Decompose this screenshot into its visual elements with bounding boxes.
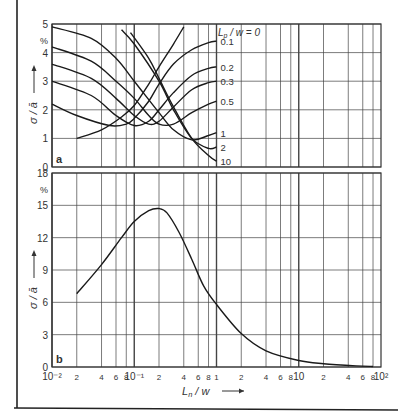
panel-tag: b — [56, 353, 63, 365]
x-tick-label: 10⁻² — [42, 371, 62, 382]
x-tick-label: 6 — [361, 373, 366, 382]
y-tick-label: 6 — [42, 297, 48, 308]
y-unit-label: % — [40, 36, 48, 46]
x-tick-label: 10 — [293, 371, 305, 382]
x-tick-label: 10² — [374, 371, 389, 382]
page-border-bottom — [14, 408, 398, 410]
series-label: 0.2 — [221, 62, 234, 73]
series-label: 0.5 — [221, 96, 234, 107]
y-tick-label: 2 — [42, 105, 48, 116]
series-label: 1 — [221, 128, 226, 139]
series-label: 2 — [221, 142, 226, 153]
y-tick-label: 3 — [42, 330, 48, 341]
y-tick-label: 3 — [42, 76, 48, 87]
x-axis-label: Ln / w — [182, 385, 210, 399]
figure: 012345%a0.10.20.30.51210Lp / w = 0 03691… — [0, 0, 398, 415]
x-tick-label: 1 — [214, 373, 219, 382]
legend-parameter-label: Lp / w = 0 — [218, 27, 260, 40]
y-axis-label: σ / ā — [27, 102, 39, 124]
x-tick-label: 4 — [264, 373, 269, 382]
series-label: 0.3 — [221, 76, 234, 87]
series-curve — [130, 33, 216, 162]
x-tick-label: 4 — [99, 373, 104, 382]
x-tick-label: 6 — [196, 373, 201, 382]
arrow-head-icon — [32, 65, 37, 71]
panel-b: 0369121518%b — [37, 168, 381, 373]
x-tick-label: 8 — [206, 373, 211, 382]
y-tick-label: 15 — [37, 200, 49, 211]
chart-svg: 012345%a0.10.20.30.51210Lp / w = 0 03691… — [0, 0, 398, 415]
y-tick-label: 4 — [42, 48, 48, 59]
series-curve — [122, 30, 217, 149]
y-tick-label: 9 — [42, 265, 48, 276]
y-tick-label: 12 — [37, 233, 49, 244]
axis-labels: 10⁻²246810⁻¹24681246810246810²Ln / wσ / … — [27, 65, 389, 399]
x-tick-label: 10⁻¹ — [125, 371, 145, 382]
x-tick-label: 6 — [278, 373, 283, 382]
panel-tag: a — [56, 153, 63, 165]
y-axis-label: σ / ā — [27, 287, 39, 309]
x-tick-label: 2 — [239, 373, 244, 382]
x-tick-label: 2 — [157, 373, 162, 382]
y-tick-label: 1 — [42, 133, 48, 144]
x-tick-label: 4 — [346, 373, 351, 382]
y-unit-label: % — [40, 185, 48, 195]
series-label: 10 — [221, 156, 232, 167]
y-tick-label: 5 — [42, 19, 48, 30]
x-tick-label: 2 — [75, 373, 80, 382]
arrow-head-icon — [239, 389, 244, 394]
x-tick-label: 2 — [321, 373, 326, 382]
arrow-head-icon — [32, 250, 37, 256]
x-tick-label: 6 — [114, 373, 119, 382]
panel-a: 012345%a0.10.20.30.51210Lp / w = 0 — [40, 19, 381, 173]
x-tick-label: 4 — [182, 373, 187, 382]
series-curve — [77, 208, 373, 366]
y-tick-label: 18 — [37, 168, 49, 179]
